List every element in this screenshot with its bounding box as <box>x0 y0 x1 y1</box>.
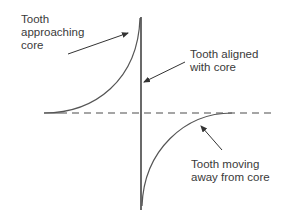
arrow-aligned <box>144 62 185 82</box>
label-tooth-approaching: Tooth approaching core <box>21 13 84 52</box>
label-tooth-moving-away: Tooth moving away from core <box>191 158 270 184</box>
arrow-moving-away <box>201 126 222 150</box>
label-tooth-aligned: Tooth aligned with core <box>190 48 258 74</box>
